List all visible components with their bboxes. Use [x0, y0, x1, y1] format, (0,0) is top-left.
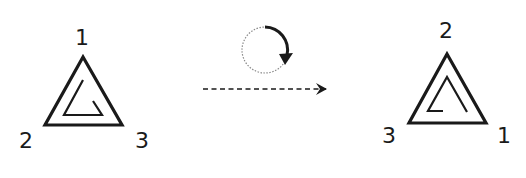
diagram-canvas: 1 2 3 2 3 1 [0, 0, 526, 178]
vertex-label-bottom-right-after: 1 [497, 123, 511, 148]
vertex-label-top-after: 2 [439, 18, 453, 43]
rotation-arc [265, 27, 288, 55]
vertex-label-bottom-left-after: 3 [382, 123, 396, 148]
vertex-label-top-before: 1 [75, 25, 89, 50]
outer-triangle-after [409, 54, 486, 123]
vertex-label-bottom-left-before: 2 [19, 128, 33, 153]
inner-spiral-before [64, 80, 102, 115]
rotation-arrowhead [279, 53, 293, 65]
clockwise-rotation-icon [242, 27, 293, 73]
rotation-diagram: 1 2 3 2 3 1 [0, 0, 526, 178]
vertex-label-bottom-right-before: 3 [135, 128, 149, 153]
transform-indicator [203, 27, 326, 89]
triangle-after: 2 3 1 [382, 18, 511, 148]
triangle-before: 1 2 3 [19, 25, 149, 153]
